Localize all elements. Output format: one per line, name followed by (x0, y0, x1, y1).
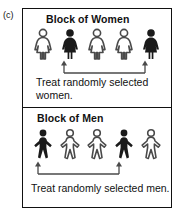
woman-figure-3 (86, 28, 108, 60)
women-selection-arrows (23, 59, 171, 77)
man-figure-1-selected (32, 128, 54, 160)
women-arrow-connector-icon (23, 59, 173, 77)
block-women-title: Block of Women (46, 13, 129, 25)
diagram-outer-box: Block of Women (22, 8, 172, 208)
block-of-women: Block of Women (23, 9, 171, 108)
blocking-diagram: (c) Block of Women (0, 0, 182, 217)
men-figure-row (23, 128, 171, 160)
man-figure-4-selected (113, 128, 135, 160)
block-men-title: Block of Men (37, 112, 104, 124)
women-caption: Treat randomly selected women. (23, 76, 182, 101)
women-caption-line-2: women. (36, 89, 182, 102)
woman-figure-1 (32, 28, 54, 60)
man-figure-2 (59, 128, 81, 160)
man-figure-5 (140, 128, 162, 160)
women-caption-line-1: Treat randomly selected (36, 76, 182, 89)
men-caption-line-1: Treat randomly selected men. (31, 182, 179, 195)
men-arrow-connector-icon (23, 160, 173, 178)
women-figure-row (23, 28, 171, 60)
woman-figure-5-selected (140, 28, 162, 60)
block-of-men: Block of Men (23, 108, 171, 207)
men-caption: Treat randomly selected men. (23, 182, 179, 195)
man-figure-3 (86, 128, 108, 160)
men-selection-arrows (23, 160, 171, 178)
panel-label: (c) (3, 10, 14, 20)
woman-figure-4 (113, 28, 135, 60)
woman-figure-2-selected (59, 28, 81, 60)
